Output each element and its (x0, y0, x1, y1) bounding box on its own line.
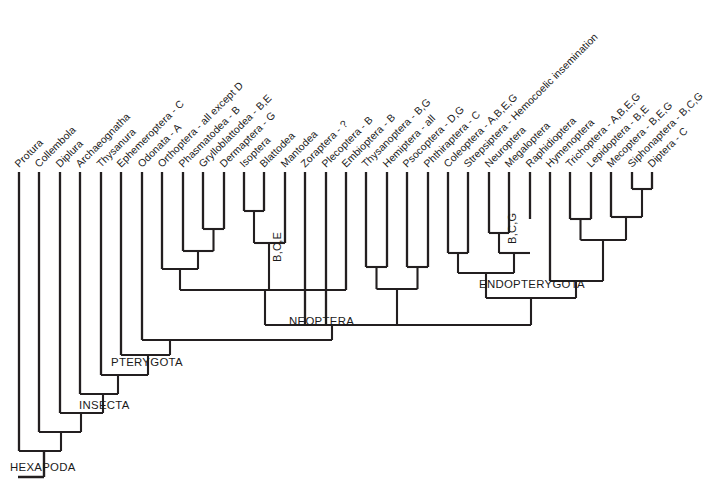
clade-label-bcg: B,C,G (506, 213, 518, 244)
clade-label-bce: B,C,E (271, 232, 283, 262)
clade-label-pterygota: PTERYGOTA (111, 356, 183, 368)
clade-label-endopterygota: ENDOPTERYGOTA (479, 278, 585, 290)
internal-nodes (18, 189, 652, 477)
clade-label-hexapoda: HEXAPODA (10, 461, 76, 473)
clade-label-insecta: INSECTA (79, 399, 130, 411)
tip-labels: Protura Collembola Diplura Archaeognatha… (13, 31, 705, 169)
clade-label-neoptera: NEOPTERA (289, 315, 354, 327)
cladogram-figure: Protura Collembola Diplura Archaeognatha… (0, 0, 708, 489)
